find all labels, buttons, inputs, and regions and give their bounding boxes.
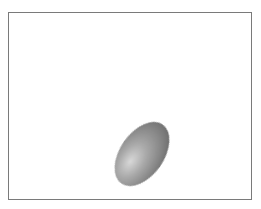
shaded-ellipse xyxy=(0,0,261,209)
ellipse-body xyxy=(103,112,180,196)
